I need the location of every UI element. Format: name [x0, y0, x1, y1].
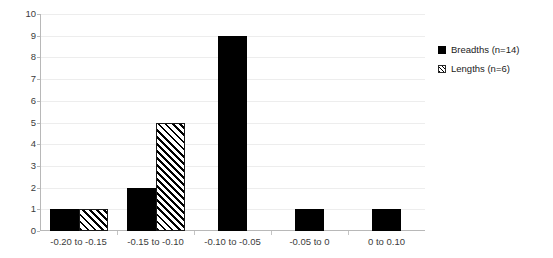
- y-tick-label: 4: [6, 139, 36, 149]
- bar-breadths: [218, 36, 247, 231]
- bar-breadths: [372, 209, 401, 231]
- y-tick-label: 1: [6, 204, 36, 214]
- x-tick-mark: [271, 231, 272, 235]
- bar-lengths: [156, 123, 185, 232]
- y-tick-label: 8: [6, 52, 36, 62]
- legend-item: Lengths (n=6): [438, 59, 550, 78]
- x-tick-mark: [348, 231, 349, 235]
- y-tick-label: 6: [6, 96, 36, 106]
- x-tick-label: -0.15 to -0.10: [117, 236, 194, 247]
- hatched-square-icon: [438, 65, 446, 73]
- x-tick-label: 0 to 0.10: [348, 236, 425, 247]
- y-tick-mark: [37, 79, 40, 80]
- legend-item-label: Lengths (n=6): [451, 64, 510, 74]
- x-tick-mark: [117, 231, 118, 235]
- solid-square-icon: [438, 46, 446, 54]
- y-axis: 012345678910: [0, 0, 36, 258]
- x-tick-label: -0.10 to -0.05: [194, 236, 271, 247]
- x-axis: -0.20 to -0.15-0.15 to -0.10-0.10 to -0.…: [40, 236, 425, 256]
- x-tick-label: -0.20 to -0.15: [40, 236, 117, 247]
- y-tick-mark: [37, 166, 40, 167]
- y-tick-label: 10: [6, 9, 36, 19]
- y-tick-mark: [37, 57, 40, 58]
- bar-breadths: [295, 209, 324, 231]
- y-tick-label: 0: [6, 226, 36, 236]
- y-tick-label: 3: [6, 161, 36, 171]
- bar-breadths: [127, 188, 156, 231]
- y-tick-mark: [37, 209, 40, 210]
- y-tick-mark: [37, 101, 40, 102]
- bar-chart: 012345678910 -0.20 to -0.15-0.15 to -0.1…: [0, 0, 553, 258]
- bar-breadths: [50, 209, 79, 231]
- x-tick-mark: [194, 231, 195, 235]
- y-tick-label: 9: [6, 31, 36, 41]
- y-tick-mark: [37, 188, 40, 189]
- y-tick-label: 7: [6, 74, 36, 84]
- legend: Breadths (n=14)Lengths (n=6): [438, 40, 550, 78]
- bars-layer: [40, 14, 425, 231]
- y-tick-mark: [37, 36, 40, 37]
- y-tick-mark: [37, 123, 40, 124]
- y-tick-mark: [37, 14, 40, 15]
- y-tick-label: 5: [6, 118, 36, 128]
- y-tick-mark: [37, 144, 40, 145]
- x-tick-label: -0.05 to 0: [271, 236, 348, 247]
- y-tick-label: 2: [6, 183, 36, 193]
- y-tick-mark: [37, 231, 40, 232]
- legend-item-label: Breadths (n=14): [451, 45, 519, 55]
- bar-lengths: [79, 209, 108, 231]
- legend-item: Breadths (n=14): [438, 40, 550, 59]
